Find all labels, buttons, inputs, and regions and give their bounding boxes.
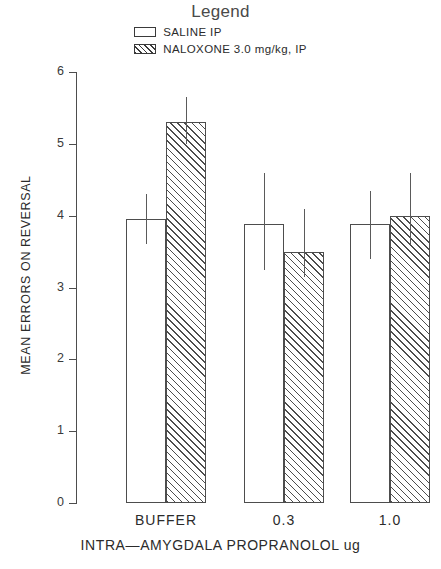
error-bar [304, 209, 305, 277]
error-bar [186, 97, 187, 144]
bar-group [244, 72, 324, 503]
y-axis-tick-label: 0 [38, 496, 64, 509]
y-axis-tick [69, 431, 77, 432]
y-axis-tick [69, 72, 77, 73]
y-axis-title: MEAN ERRORS ON REVERSAL [19, 145, 33, 405]
bar[interactable] [390, 216, 430, 503]
error-bar [370, 191, 371, 259]
y-axis-tick [69, 144, 77, 145]
y-axis-tick-label: 5 [38, 137, 64, 150]
y-axis-tick [69, 216, 77, 217]
bar-group [350, 72, 430, 503]
x-axis-tick-label: 1.0 [310, 512, 441, 528]
bar-group [126, 72, 206, 503]
error-bar [410, 173, 411, 245]
y-axis-tick-label: 3 [38, 281, 64, 294]
y-axis-tick-label: 4 [38, 209, 64, 222]
y-axis-tick-label: 6 [38, 65, 64, 78]
y-axis-tick [69, 359, 77, 360]
y-axis-tick [69, 503, 77, 504]
bar[interactable] [126, 219, 166, 503]
bar-chart: MEAN ERRORS ON REVERSAL 0123456 INTRA—AM… [0, 0, 441, 569]
error-bar [264, 173, 265, 270]
bar[interactable] [350, 224, 390, 503]
bar[interactable] [284, 252, 324, 503]
x-axis-title: INTRA—AMYGDALA PROPRANOLOL ug [0, 537, 441, 553]
error-bar [146, 194, 147, 244]
bar[interactable] [166, 122, 206, 503]
y-axis-tick-label: 2 [38, 352, 64, 365]
y-axis-tick [69, 288, 77, 289]
y-axis-tick-label: 1 [38, 424, 64, 437]
